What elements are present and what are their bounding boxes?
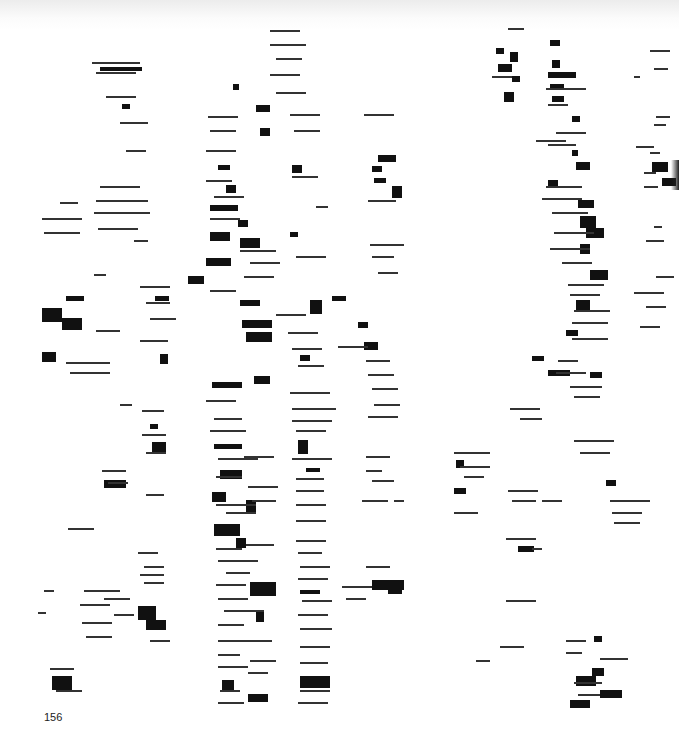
ink-line — [294, 130, 320, 132]
ink-block — [498, 64, 512, 72]
ink-line — [126, 150, 146, 152]
ink-block — [122, 104, 130, 109]
ink-line — [218, 654, 240, 656]
ink-block — [254, 376, 270, 384]
ink-line — [104, 598, 130, 600]
ink-block — [210, 232, 230, 241]
ink-block — [240, 300, 260, 306]
ink-line — [206, 180, 232, 182]
ink-line — [240, 250, 276, 252]
ink-block — [298, 440, 308, 454]
ink-block — [233, 84, 239, 90]
ink-line — [208, 116, 238, 118]
ink-line — [68, 528, 94, 530]
ink-line — [338, 346, 368, 348]
ink-line — [56, 690, 82, 692]
ink-block — [600, 690, 622, 698]
ink-line — [316, 206, 328, 208]
ink-block — [42, 308, 62, 322]
ink-line — [508, 490, 538, 492]
ink-line — [206, 150, 236, 152]
ink-line — [102, 470, 126, 472]
ink-line — [96, 200, 148, 202]
ink-block — [226, 185, 236, 193]
ink-line — [644, 172, 656, 174]
ink-block — [374, 178, 386, 183]
ink-block — [378, 155, 396, 162]
ink-line — [210, 130, 236, 132]
ink-block — [590, 270, 608, 280]
ink-block — [552, 96, 564, 102]
ink-line — [372, 388, 398, 390]
ink-line — [636, 146, 654, 148]
ink-block — [572, 116, 580, 122]
ink-block — [220, 470, 242, 479]
ink-line — [50, 668, 74, 670]
ink-line — [248, 672, 268, 674]
ink-line — [646, 306, 666, 308]
ink-block — [242, 320, 272, 328]
ink-line — [368, 200, 396, 202]
ink-block — [238, 220, 248, 227]
ink-line — [574, 682, 602, 684]
ink-line — [558, 360, 578, 362]
ink-line — [542, 500, 562, 502]
ink-line — [44, 590, 54, 592]
ink-line — [366, 470, 382, 472]
ink-line — [574, 440, 614, 442]
ink-line — [138, 552, 158, 554]
ink-line — [70, 372, 110, 374]
ink-block — [290, 232, 298, 237]
ink-line — [572, 322, 608, 324]
ink-block — [160, 354, 168, 364]
ink-block — [214, 524, 240, 536]
ink-block — [300, 590, 320, 594]
ink-line — [298, 552, 322, 554]
ink-block — [566, 330, 578, 336]
ink-block — [590, 372, 602, 378]
ink-block — [146, 620, 166, 630]
ink-block — [358, 322, 368, 328]
ink-line — [98, 228, 138, 230]
ink-line — [144, 582, 164, 584]
ink-line — [206, 400, 236, 402]
ink-block — [594, 636, 602, 642]
ink-line — [100, 186, 140, 188]
ink-line — [454, 512, 478, 514]
ink-line — [114, 614, 134, 616]
ink-line — [120, 404, 132, 406]
ink-block — [212, 382, 242, 388]
page-number: 156 — [44, 711, 62, 723]
ink-line — [654, 68, 668, 70]
ink-line — [296, 540, 326, 542]
ink-line — [300, 628, 332, 630]
ink-line — [610, 500, 650, 502]
ink-line — [506, 600, 536, 602]
ink-block — [392, 186, 402, 198]
ink-line — [520, 418, 542, 420]
ink-line — [634, 292, 664, 294]
ink-line — [146, 452, 166, 454]
ink-line — [296, 504, 326, 506]
ink-line — [542, 198, 582, 200]
ink-line — [216, 476, 242, 478]
ink-line — [140, 340, 168, 342]
ink-block — [454, 488, 466, 494]
ink-line — [66, 362, 110, 364]
ink-line — [536, 140, 566, 142]
ink-line — [640, 326, 660, 328]
ink-line — [82, 622, 112, 624]
ink-line — [580, 452, 610, 454]
ink-line — [298, 614, 328, 616]
ink-line — [142, 410, 164, 412]
ink-block — [372, 166, 382, 172]
ink-line — [288, 332, 318, 334]
ink-line — [108, 482, 128, 484]
ink-line — [86, 636, 112, 638]
ink-line — [372, 480, 394, 482]
abstract-artwork — [0, 0, 679, 710]
ink-block — [212, 492, 226, 502]
ink-line — [270, 44, 306, 46]
ink-block — [576, 300, 590, 310]
ink-line — [244, 456, 274, 458]
